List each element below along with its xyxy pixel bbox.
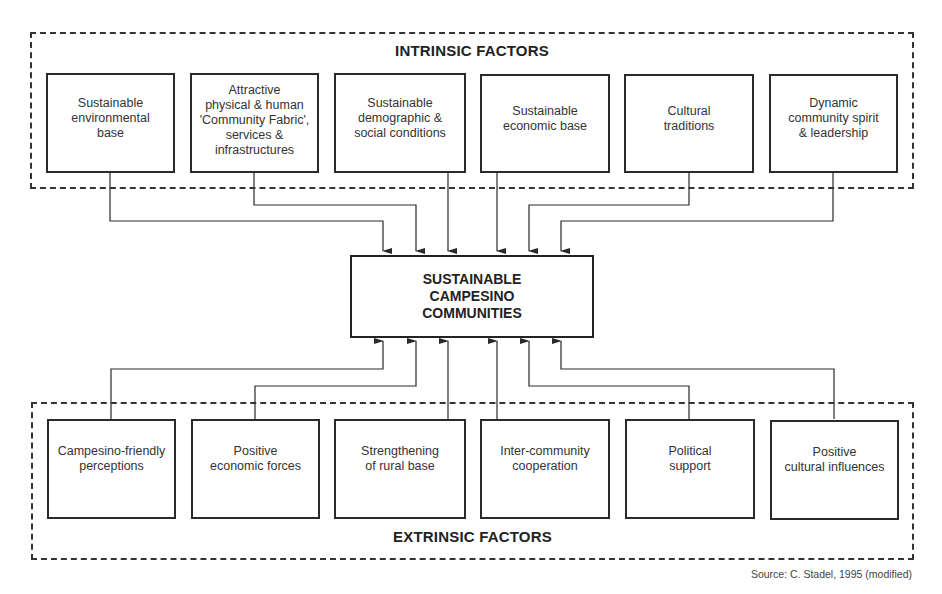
factor-label: Sustainable environmental base — [71, 96, 150, 141]
intrinsic-factor-community-spirit: Dynamic community spirit & leadership — [769, 74, 898, 173]
factor-label: Positive economic forces — [210, 444, 301, 474]
factor-label: Inter-community cooperation — [500, 444, 590, 474]
intrinsic-factor-cultural-traditions: Cultural traditions — [624, 74, 754, 173]
extrinsic-factor-campesino-friendly: Campesino-friendly perceptions — [47, 419, 176, 519]
center-label: SUSTAINABLE CAMPESINO COMMUNITIES — [422, 271, 522, 322]
sustainable-campesino-communities-box: SUSTAINABLE CAMPESINO COMMUNITIES — [350, 255, 594, 338]
factor-label: Dynamic community spirit & leadership — [788, 96, 878, 141]
factor-label: Campesino-friendly perceptions — [58, 444, 166, 474]
factor-label: Positive cultural influences — [784, 445, 884, 475]
factor-label: Political support — [668, 444, 711, 474]
factor-label: Sustainable economic base — [503, 104, 587, 134]
factor-label: Strengthening of rural base — [361, 444, 439, 474]
extrinsic-factor-economic-forces: Positive economic forces — [191, 419, 320, 519]
source-citation: Source: C. Stadel, 1995 (modified) — [751, 568, 912, 580]
factor-label: Cultural traditions — [664, 104, 715, 134]
extrinsic-factor-rural-base: Strengthening of rural base — [334, 419, 466, 519]
intrinsic-factor-community-fabric: Attractive physical & human 'Community F… — [190, 73, 319, 173]
extrinsic-factor-cultural-influences: Positive cultural influences — [770, 420, 899, 520]
extrinsic-factor-political-support: Political support — [625, 419, 755, 519]
factor-label: Attractive physical & human 'Community F… — [200, 83, 310, 158]
extrinsic-factors-title: EXTRINSIC FACTORS — [33, 528, 912, 545]
intrinsic-factor-economic-base: Sustainable economic base — [480, 74, 610, 173]
extrinsic-factor-inter-community: Inter-community cooperation — [480, 419, 610, 519]
factor-label: Sustainable demographic & social conditi… — [354, 96, 446, 141]
intrinsic-factor-environmental-base: Sustainable environmental base — [46, 73, 175, 173]
intrinsic-factors-title: INTRINSIC FACTORS — [32, 42, 912, 59]
intrinsic-factor-demographic-social: Sustainable demographic & social conditi… — [334, 73, 466, 173]
